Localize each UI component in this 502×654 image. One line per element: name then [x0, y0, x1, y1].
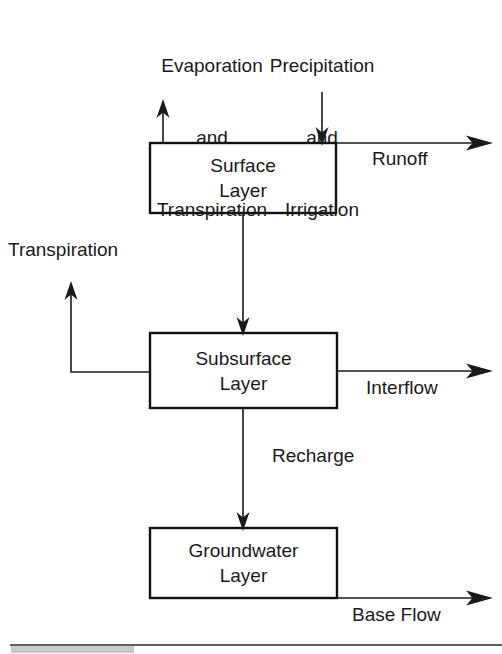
scan-artifact-block: [11, 646, 134, 653]
precipitation-label-line3: Irrigation: [212, 198, 432, 222]
runoff-label: Runoff: [372, 147, 428, 171]
transpiration-label: Transpiration: [8, 238, 118, 262]
hydrologic-flow-diagram: Evaporation and Transpiration Precipitat…: [0, 0, 502, 654]
precipitation-label: Precipitation and Irrigation: [212, 6, 432, 270]
subsurface-layer-box: [150, 333, 337, 408]
precipitation-label-line1: Precipitation: [212, 54, 432, 78]
transpiration-flow-line: [71, 291, 150, 372]
recharge-label: Recharge: [272, 444, 354, 468]
interflow-label: Interflow: [366, 376, 438, 400]
base-flow-label: Base Flow: [352, 603, 441, 627]
groundwater-layer-box: [150, 528, 337, 598]
